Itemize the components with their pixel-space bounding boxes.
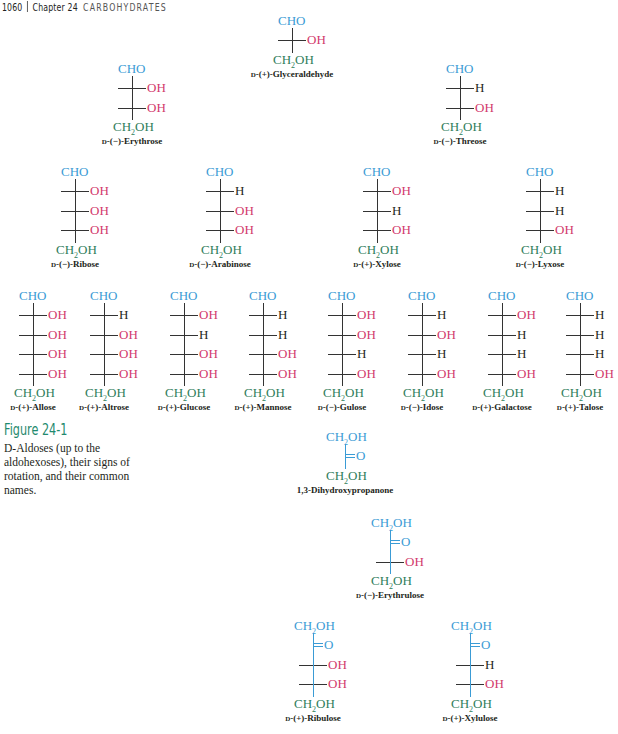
vertical-backbone-line: [390, 530, 391, 574]
vertical-backbone-line: [345, 444, 346, 469]
right-substituent-label: H: [235, 184, 244, 198]
vertical-backbone-line: [460, 76, 461, 120]
page-header: 1060Chapter 24 CARBOHYDRATES: [2, 1, 167, 13]
right-substituent-label: OH: [405, 555, 424, 569]
vertical-backbone-line: [502, 303, 503, 386]
right-substituent-label: H: [485, 658, 494, 672]
right-substituent-label: H: [595, 347, 604, 361]
vertical-backbone-line: [75, 179, 76, 243]
right-substituent-label: OH: [357, 328, 376, 342]
right-substituent-label: OH: [485, 677, 504, 691]
double-bond-line: [470, 646, 480, 647]
right-substituent-label: OH: [199, 308, 218, 322]
vertical-backbone-line: [104, 303, 105, 386]
right-substituent-label: OH: [48, 367, 67, 381]
right-substituent-label: H: [595, 328, 604, 342]
right-substituent-label: OH: [357, 367, 376, 381]
right-substituent-label: OH: [235, 223, 254, 237]
right-substituent-label: OH: [555, 223, 574, 237]
vertical-backbone-line: [220, 179, 221, 243]
right-substituent-label: OH: [517, 367, 536, 381]
double-bond-line: [345, 457, 355, 458]
right-substituent-label: OH: [147, 101, 166, 115]
right-substituent-label: OH: [235, 204, 254, 218]
carbonyl-oxygen-label: O: [324, 638, 333, 652]
top-group-label: CHO: [118, 62, 145, 76]
top-group-label: CHO: [170, 289, 197, 303]
vertical-backbone-line: [313, 633, 314, 697]
right-substituent-label: OH: [90, 204, 109, 218]
right-substituent-label: H: [555, 184, 564, 198]
right-substituent-label: OH: [475, 101, 494, 115]
sugar-name-label: D-(−)-Threose: [410, 136, 510, 146]
right-substituent-label: OH: [437, 328, 456, 342]
right-substituent-label: OH: [119, 347, 138, 361]
right-substituent-label: H: [437, 308, 446, 322]
right-substituent-label: OH: [328, 677, 347, 691]
sugar-name-label: D-(−)-Erythrulose: [340, 590, 440, 600]
right-substituent-label: H: [517, 347, 526, 361]
carbonyl-oxygen-label: O: [401, 535, 410, 549]
right-substituent-label: H: [278, 308, 287, 322]
right-substituent-label: OH: [307, 33, 326, 47]
top-group-label: CH2OH: [451, 619, 492, 639]
vertical-backbone-line: [580, 303, 581, 386]
right-substituent-label: OH: [278, 347, 297, 361]
right-substituent-label: H: [517, 328, 526, 342]
double-bond-line: [470, 643, 480, 644]
double-bond-line: [390, 543, 400, 544]
sugar-name-label: D-(+)-Talose: [530, 402, 618, 412]
sugar-name-label: D-(−)-Erythrose: [82, 136, 182, 146]
right-substituent-label: H: [437, 347, 446, 361]
double-bond-line: [313, 646, 323, 647]
right-substituent-label: H: [199, 328, 208, 342]
top-group-label: CHO: [526, 165, 553, 179]
double-bond-line: [390, 540, 400, 541]
figure-caption-text: D-Aldoses (up to the aldohexoses), their…: [4, 441, 164, 497]
vertical-backbone-line: [422, 303, 423, 386]
sugar-name-label: D-(+)-Xylulose: [420, 713, 520, 723]
vertical-backbone-line: [263, 303, 264, 386]
right-substituent-label: OH: [90, 223, 109, 237]
vertical-backbone-line: [540, 179, 541, 243]
header-divider: [27, 1, 28, 12]
top-group-label: CH2OH: [371, 516, 412, 536]
right-substituent-label: OH: [199, 347, 218, 361]
top-group-label: CHO: [19, 289, 46, 303]
right-substituent-label: OH: [437, 367, 456, 381]
top-group-label: CHO: [206, 165, 233, 179]
vertical-backbone-line: [377, 179, 378, 243]
vertical-backbone-line: [33, 303, 34, 386]
right-substituent-label: OH: [48, 347, 67, 361]
figure-label: Figure 24-1: [4, 421, 124, 439]
right-substituent-label: OH: [595, 367, 614, 381]
double-bond-line: [345, 454, 355, 455]
top-group-label: CHO: [249, 289, 276, 303]
vertical-backbone-line: [470, 633, 471, 697]
right-substituent-label: OH: [119, 367, 138, 381]
right-substituent-label: OH: [278, 367, 297, 381]
right-substituent-label: H: [475, 81, 484, 95]
vertical-backbone-line: [132, 76, 133, 120]
right-substituent-label: H: [119, 308, 128, 322]
right-substituent-label: H: [357, 347, 366, 361]
right-substituent-label: OH: [199, 367, 218, 381]
top-group-label: CHO: [278, 14, 305, 28]
carbonyl-oxygen-label: O: [481, 638, 490, 652]
right-substituent-label: OH: [119, 328, 138, 342]
right-substituent-label: OH: [90, 184, 109, 198]
sugar-name-label: D-(+)-Xylose: [327, 259, 427, 269]
right-substituent-label: H: [595, 308, 604, 322]
sugar-name-label: D-(−)-Lyxose: [490, 259, 590, 269]
vertical-backbone-line: [184, 303, 185, 386]
right-substituent-label: OH: [357, 308, 376, 322]
sugar-name-label: D-(−)-Ribose: [25, 259, 125, 269]
chapter-label: Chapter 24: [33, 2, 78, 13]
vertical-backbone-line: [342, 303, 343, 386]
sugar-name-label: D-(−)-Arabinose: [170, 259, 270, 269]
top-group-label: CHO: [363, 165, 390, 179]
right-substituent-label: OH: [48, 328, 67, 342]
double-bond-line: [313, 643, 323, 644]
sugar-name-label: D-(+)-Glyceraldehyde: [242, 69, 342, 79]
top-group-label: CHO: [566, 289, 593, 303]
